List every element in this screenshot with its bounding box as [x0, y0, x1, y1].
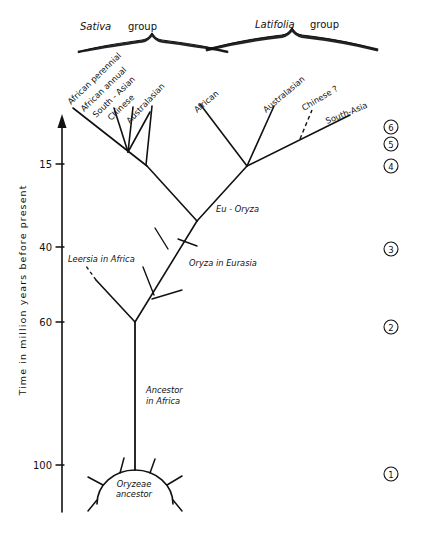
stage-marker-2: 2: [384, 320, 398, 334]
label-latifolia-chinese: Chinese ?: [300, 83, 340, 112]
stub-branch: [178, 239, 197, 246]
axis-title: Time in million years before present: [17, 184, 28, 396]
stage-marker-5-label: 5: [388, 140, 393, 150]
stage-marker-6: 6: [384, 120, 398, 134]
stub-branch: [152, 290, 182, 299]
stage-marker-1-label: 1: [388, 470, 393, 480]
stage-markers: 6 5 4 3 2 1: [384, 120, 398, 481]
stage-marker-5: 5: [384, 137, 398, 151]
tip-latifolia-australasian: [247, 106, 274, 166]
axis-tick-60: 60: [39, 317, 52, 328]
tree-branches: [73, 104, 350, 470]
label-latifolia-south-asia: South-Asia: [324, 100, 369, 126]
label-latifolia-african: African: [192, 88, 221, 114]
sativa-group-name: Sativa: [80, 21, 111, 32]
label-ancestor-2: ancestor: [116, 489, 153, 499]
sativa-group-label: Sativa group: [80, 21, 157, 32]
label-leersia-in-africa: Leersia in Africa: [68, 254, 135, 264]
figure-canvas: 15 40 60 100 Time in million years befor…: [0, 0, 422, 546]
axis-tick-15: 15: [39, 159, 52, 170]
latifolia-group-word: group: [310, 19, 339, 30]
stage-marker-6-label: 6: [388, 123, 393, 133]
leader-leersia-dashed: [86, 266, 96, 280]
sativa-brace: [78, 33, 228, 52]
branch-leersia: [96, 280, 135, 322]
stub-branch: [155, 228, 168, 249]
stage-marker-3-label: 3: [388, 245, 393, 255]
tree-diagram: 15 40 60 100 Time in million years befor…: [0, 0, 422, 546]
sativa-group-word: group: [128, 21, 157, 32]
latifolia-group-label: Latifolia group: [255, 19, 339, 30]
label-latifolia-australasian: Australasian: [261, 74, 307, 115]
branch-to-sativa: [147, 166, 197, 221]
axis-arrow-icon: [58, 114, 67, 128]
label-ancestor: Ancestor: [145, 385, 183, 395]
axis-tick-40: 40: [39, 242, 52, 253]
y-axis: [56, 114, 67, 512]
label-in-africa: in Africa: [146, 396, 180, 406]
stage-marker-2-label: 2: [388, 323, 393, 333]
latifolia-tip-labels: African Australasian Chinese ? South-Asi…: [192, 74, 369, 126]
stage-marker-1: 1: [384, 467, 398, 481]
stage-marker-3: 3: [384, 242, 398, 256]
label-oryza-in-eurasia: Oryza in Eurasia: [189, 258, 257, 268]
tip-latifolia-african: [200, 104, 247, 166]
label-eu-oryza: Eu - Oryza: [216, 204, 259, 214]
stub-branch: [143, 267, 154, 295]
latifolia-group-name: Latifolia: [255, 19, 295, 30]
latifolia-brace: [206, 28, 378, 50]
stage-marker-4-label: 4: [388, 162, 393, 172]
stage-marker-4: 4: [384, 159, 398, 173]
label-oryzeae: Oryzeae: [117, 479, 152, 489]
axis-tick-100: 100: [33, 460, 52, 471]
